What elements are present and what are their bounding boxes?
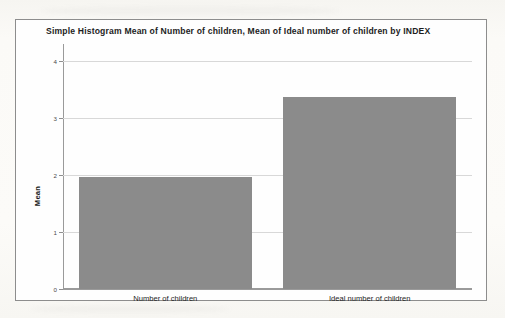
y-tick-label-4: 4 (54, 58, 57, 65)
gridline-y-0 (63, 289, 472, 290)
y-tick-mark-3 (59, 118, 63, 119)
y-tick-label-2: 2 (54, 172, 57, 179)
y-tick-label-1: 1 (54, 229, 57, 236)
chart-frame: Simple Histogram Mean of Number of child… (15, 19, 487, 301)
gridline-y-4 (63, 61, 472, 62)
x-category-label-0: Number of children (133, 294, 197, 303)
y-tick-label-0: 0 (54, 286, 57, 293)
y-tick-label-3: 3 (54, 115, 57, 122)
chart-title: Simple Histogram Mean of Number of child… (46, 26, 476, 36)
scan-artifact (30, 305, 230, 313)
bar-0[interactable] (79, 177, 252, 289)
x-category-label-1: Ideal number of children (329, 294, 410, 303)
y-tick-mark-4 (59, 61, 63, 62)
scan-artifact (40, 6, 340, 16)
bar-1[interactable] (283, 97, 456, 289)
y-axis-title: Mean (33, 186, 42, 206)
y-tick-mark-0 (59, 289, 63, 290)
plot-area: 01234 (63, 44, 472, 289)
y-tick-mark-2 (59, 175, 63, 176)
y-axis-line (63, 44, 64, 289)
y-tick-mark-1 (59, 232, 63, 233)
